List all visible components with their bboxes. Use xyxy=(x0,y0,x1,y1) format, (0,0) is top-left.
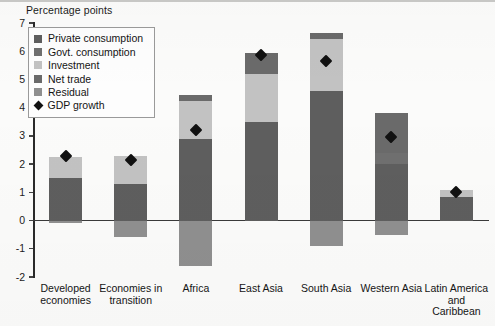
y-tick-label: 1 xyxy=(1,187,25,198)
x-axis-label-line: Latin America xyxy=(420,283,493,295)
legend-item: Residual xyxy=(34,86,149,99)
top-divider xyxy=(0,0,495,2)
bar-segment xyxy=(114,221,147,238)
bar-segment xyxy=(245,122,278,221)
x-axis-label-line: Africa xyxy=(159,283,232,295)
bar-group xyxy=(310,23,343,277)
diamond-marker-icon xyxy=(33,101,43,111)
bar-group xyxy=(375,23,408,277)
x-axis-label-line: Western Asia xyxy=(355,283,428,295)
legend-label: Net trade xyxy=(48,74,91,85)
legend-item: Private consumption xyxy=(34,32,149,45)
x-axis-label: East Asia xyxy=(224,283,297,295)
y-axis-title: Percentage points xyxy=(26,4,112,16)
x-axis-label: South Asia xyxy=(290,283,363,295)
bar-segment xyxy=(375,221,408,235)
y-tick-label: 6 xyxy=(1,46,25,57)
x-axis-label-line: transition xyxy=(94,295,167,307)
legend-item: Net trade xyxy=(34,72,149,85)
x-axis-label-line: South Asia xyxy=(290,283,363,295)
y-tick-label: 4 xyxy=(1,102,25,113)
legend-label: Private consumption xyxy=(48,33,143,44)
bar-segment xyxy=(49,178,82,220)
x-axis-label: Developedeconomies xyxy=(29,283,102,306)
legend-label: Investment xyxy=(48,60,99,71)
bar-segment xyxy=(49,221,82,224)
x-axis-label-line: Developed xyxy=(29,283,102,295)
y-tick-label: 5 xyxy=(1,74,25,85)
x-axis-label-line: Economies in xyxy=(94,283,167,295)
bar-segment xyxy=(440,197,473,221)
legend-label: Govt. consumption xyxy=(48,47,136,58)
bar-segment xyxy=(375,164,408,220)
legend-label: Residual xyxy=(48,87,89,98)
bar-segment xyxy=(310,91,343,221)
bar-segment xyxy=(310,33,343,39)
legend-item: Investment xyxy=(34,59,149,72)
bar-segment xyxy=(375,153,408,164)
x-axis-label-line: economies xyxy=(29,295,102,307)
legend-label: GDP growth xyxy=(48,100,105,111)
chart-legend: Private consumptionGovt. consumptionInve… xyxy=(28,27,155,118)
y-tick-label: -2 xyxy=(1,272,25,283)
y-tick-label: -1 xyxy=(1,243,25,254)
legend-swatch-icon xyxy=(34,88,42,96)
bar-segment xyxy=(310,221,343,246)
legend-swatch-icon xyxy=(34,48,42,56)
bar-group xyxy=(245,23,278,277)
bar-segment xyxy=(245,74,278,122)
x-axis-label-line: Caribbean xyxy=(420,306,493,318)
x-axis-label: Western Asia xyxy=(355,283,428,295)
y-tick-label: 2 xyxy=(1,159,25,170)
bar-segment xyxy=(114,184,147,221)
legend-swatch-icon xyxy=(34,35,42,43)
legend-item: Govt. consumption xyxy=(34,45,149,58)
x-axis-label: Economies intransition xyxy=(94,283,167,306)
x-axis-label: Latin AmericaandCaribbean xyxy=(420,283,493,318)
y-tick-label: 7 xyxy=(1,18,25,29)
legend-swatch-icon xyxy=(34,61,42,69)
x-axis-label: Africa xyxy=(159,283,232,295)
legend-swatch-icon xyxy=(34,75,42,83)
bar-segment xyxy=(179,139,212,221)
y-tick-label: 3 xyxy=(1,130,25,141)
bar-segment xyxy=(179,221,212,266)
bar-group xyxy=(179,23,212,277)
x-axis-label-line: East Asia xyxy=(224,283,297,295)
bar-group xyxy=(440,23,473,277)
bar-segment xyxy=(179,95,212,101)
y-tick-label: 0 xyxy=(1,215,25,226)
legend-item: GDP growth xyxy=(34,99,149,112)
